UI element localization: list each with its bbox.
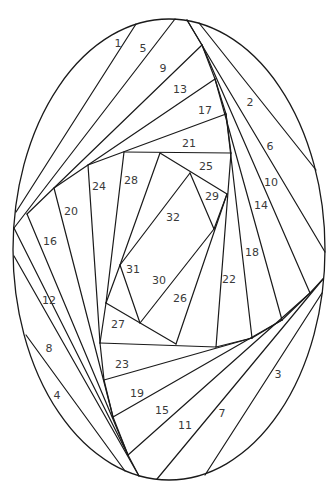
segment-label: 21 <box>182 137 196 150</box>
fold-line <box>120 153 160 265</box>
fold-line <box>100 343 216 347</box>
segment-label: 5 <box>140 42 147 55</box>
segment-label: 28 <box>124 174 138 187</box>
segment-label: 14 <box>254 199 268 212</box>
segment-label: 19 <box>130 387 144 400</box>
segment-label: 10 <box>264 176 278 189</box>
fold-line <box>216 153 231 347</box>
fold-line <box>124 152 231 153</box>
segment-label: 4 <box>54 389 61 402</box>
fold-line <box>88 114 226 165</box>
fold-line <box>205 293 322 475</box>
segment-label: 3 <box>275 368 282 381</box>
fold-line <box>160 153 227 194</box>
fold-line <box>113 320 282 417</box>
fold-line <box>226 114 252 338</box>
segment-label: 11 <box>178 419 192 432</box>
ellipse-outline <box>13 19 325 480</box>
fold-line <box>104 380 113 417</box>
segment-label: 12 <box>42 294 56 307</box>
segment-label: 18 <box>245 246 259 259</box>
segment-label: 26 <box>173 292 187 305</box>
fold-line <box>199 23 316 170</box>
segment-label: 6 <box>267 140 274 153</box>
segment-label: 13 <box>173 83 187 96</box>
segment-label: 32 <box>166 211 180 224</box>
segment-label: 2 <box>247 96 254 109</box>
fold-line <box>128 293 310 455</box>
segment-label: 31 <box>126 263 140 276</box>
segment-label: 1 <box>115 37 122 50</box>
fold-line <box>100 303 106 343</box>
segment-label: 9 <box>160 62 167 75</box>
segment-label: 7 <box>219 407 226 420</box>
segment-label: 23 <box>115 358 129 371</box>
segment-label: 30 <box>152 274 166 287</box>
fold-line <box>176 194 227 344</box>
segment-label: 17 <box>198 104 212 117</box>
segment-label: 8 <box>46 342 53 355</box>
segment-label: 16 <box>43 235 57 248</box>
fold-line <box>16 24 136 212</box>
iris-folding-diagram: 1234567891011121314151617181920212223242… <box>0 0 336 492</box>
segment-label: 27 <box>111 318 125 331</box>
fold-line <box>106 152 124 303</box>
fold-lines <box>14 19 325 479</box>
segment-label: 22 <box>222 273 236 286</box>
segment-label: 15 <box>155 404 169 417</box>
fold-line <box>113 417 128 455</box>
segment-label: 24 <box>92 180 106 193</box>
fold-line <box>27 45 202 214</box>
segment-label: 25 <box>199 160 213 173</box>
segment-label: 20 <box>64 205 78 218</box>
segment-label: 29 <box>205 190 219 203</box>
